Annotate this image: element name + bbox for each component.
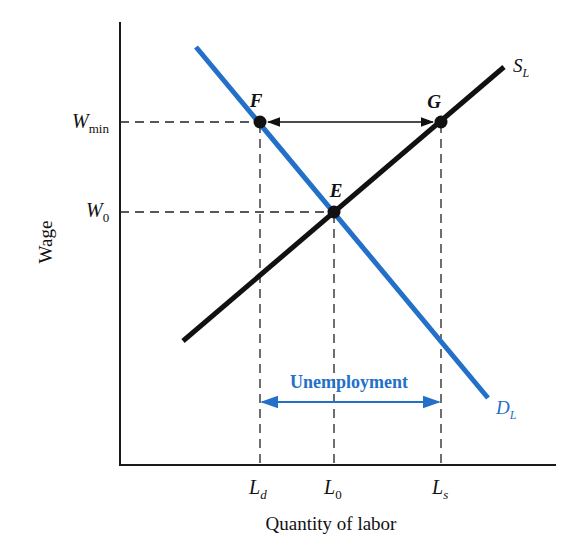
ls-sub: s [443,487,448,502]
demand-curve [196,47,488,398]
y-axis-title: Wage [35,221,56,264]
point-e-dot [328,206,341,219]
demand-label: DL [495,397,517,422]
ls-main: L [431,476,443,498]
wmin-sub: min [89,121,110,136]
point-f-dot [254,116,267,129]
w0-sub: 0 [103,210,110,225]
supply-curve [183,67,504,341]
ld-main: L [248,476,260,498]
labor-market-diagram: F G E SL DL Unemployment Wmin W0 Ld L0 L… [0,0,579,560]
ld-sub: d [260,487,267,502]
demand-label-main: D [495,397,510,418]
ld-label: Ld [248,476,267,502]
point-e-label: E [329,180,343,201]
l0-sub: 0 [335,487,342,502]
unemployment-label: Unemployment [290,372,408,392]
supply-label-sub: L [522,66,530,80]
demand-label-sub: L [509,408,517,422]
point-g-label: G [427,91,441,112]
l0-main: L [323,476,335,498]
point-f-label: F [249,90,263,111]
supply-label: SL [513,55,530,80]
wmin-label: Wmin [72,110,109,136]
l0-label: L0 [323,476,342,502]
w0-label: W0 [86,199,109,225]
supply-label-main: S [513,55,523,76]
x-axis-title: Quantity of labor [266,513,398,534]
guide-lines [120,122,441,465]
point-g-dot [435,116,448,129]
ls-label: Ls [431,476,448,502]
